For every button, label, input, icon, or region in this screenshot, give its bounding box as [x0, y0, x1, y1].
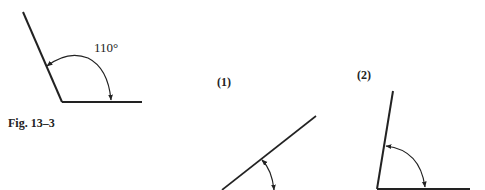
angle-label: 110°	[94, 40, 118, 56]
exercise-2-figure	[377, 91, 470, 189]
figure-caption: Fig. 13–3	[8, 116, 55, 131]
exercise-2-ray-slanted	[377, 91, 393, 189]
exercise-1-arc-arrow	[262, 160, 274, 190]
angle-arc-arrow	[47, 55, 111, 100]
angle-110-figure	[23, 12, 142, 102]
exercise-2-arc-arrow	[386, 146, 425, 187]
exercise-1-figure	[222, 116, 316, 190]
exercise-1-label: (1)	[217, 75, 231, 90]
exercise-1-ray	[222, 116, 316, 190]
exercise-2-label: (2)	[357, 68, 371, 83]
diagram-canvas	[0, 0, 485, 190]
angle-ray-slanted	[23, 12, 62, 102]
